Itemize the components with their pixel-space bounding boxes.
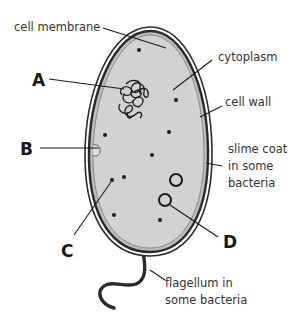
label-flagellum-1: flagellum in <box>165 276 233 290</box>
flagellum <box>100 252 145 308</box>
label-slime-coat-3: bacteria <box>228 176 275 190</box>
letter-b: B <box>20 139 33 159</box>
label-slime-coat-2: in some <box>228 159 273 173</box>
letter-d: D <box>223 232 237 252</box>
label-cell-wall: cell wall <box>225 95 271 109</box>
mesosome <box>93 145 100 156</box>
bacterial-cell-diagram: cell membrane cytoplasm cell wall slime … <box>0 0 302 325</box>
label-cytoplasm: cytoplasm <box>218 50 277 64</box>
label-cell-membrane: cell membrane <box>14 20 100 34</box>
letter-c: C <box>61 241 73 261</box>
label-flagellum-2: some bacteria <box>165 293 247 307</box>
letter-a: A <box>32 70 46 90</box>
label-slime-coat-1: slime coat <box>228 142 288 156</box>
